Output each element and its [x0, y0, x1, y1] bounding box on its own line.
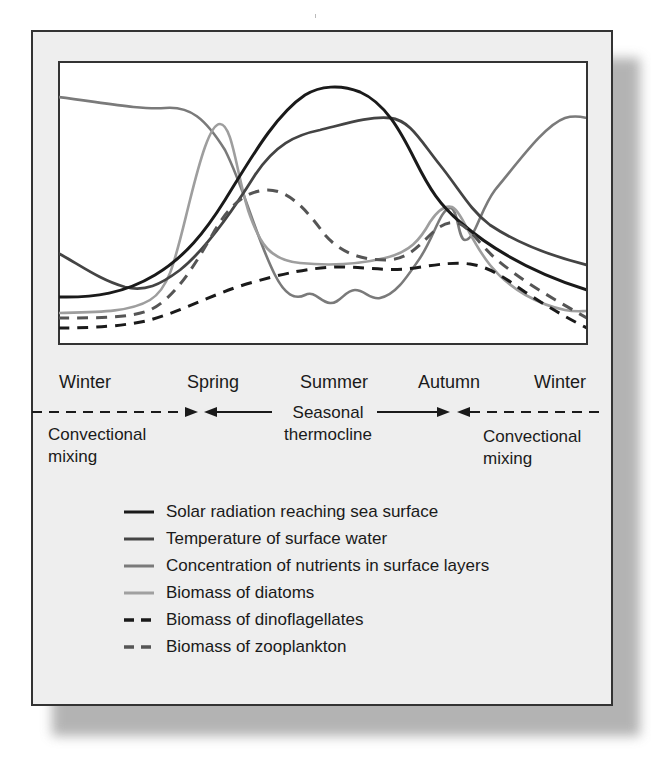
legend-label: Concentration of nutrients in surface la… — [166, 556, 489, 576]
legend-item-nutrients: Concentration of nutrients in surface la… — [122, 554, 489, 578]
left-mixing-label-line2: mixing — [48, 446, 146, 468]
right-mixing-label-line2: mixing — [483, 448, 581, 470]
season-label-spring: Spring — [187, 372, 239, 393]
season-label-winter-end: Winter — [534, 372, 586, 393]
arrowhead-left-spring — [204, 407, 217, 417]
curve-nutrients — [58, 97, 587, 303]
solid-line-icon — [122, 533, 156, 545]
arrowhead-right-autumn — [437, 407, 450, 417]
legend-label: Solar radiation reaching sea surface — [166, 502, 438, 522]
legend-item-dinoflagellates: Biomass of dinoflagellates — [122, 608, 489, 632]
legend-item-zooplankton: Biomass of zooplankton — [122, 635, 489, 659]
season-label-winter-start: Winter — [59, 372, 111, 393]
right-mixing-label: Convectional mixing — [483, 426, 581, 470]
legend: Solar radiation reaching sea surface Tem… — [122, 500, 489, 662]
dashed-line-icon — [122, 614, 156, 626]
left-mixing-label: Convectional mixing — [48, 424, 146, 468]
arrowhead-right-left — [185, 407, 198, 417]
legend-item-solar: Solar radiation reaching sea surface — [122, 500, 489, 524]
season-label-summer: Summer — [300, 372, 368, 393]
thermocline-label-line2: thermocline — [278, 424, 378, 446]
legend-label: Temperature of surface water — [166, 529, 387, 549]
legend-item-temperature: Temperature of surface water — [122, 527, 489, 551]
legend-label: Biomass of zooplankton — [166, 637, 347, 657]
thermocline-label-line1: Seasonal — [278, 402, 378, 424]
curve-temperature — [58, 118, 587, 289]
legend-label: Biomass of dinoflagellates — [166, 610, 364, 630]
legend-item-diatoms: Biomass of diatoms — [122, 581, 489, 605]
season-label-autumn: Autumn — [418, 372, 480, 393]
curve-dinoflagellates — [58, 263, 587, 328]
legend-label: Biomass of diatoms — [166, 583, 314, 603]
thermocline-label: Seasonal thermocline — [278, 402, 378, 446]
arrowhead-left-right — [457, 407, 470, 417]
solid-line-icon — [122, 587, 156, 599]
right-mixing-label-line1: Convectional — [483, 426, 581, 448]
solid-line-icon — [122, 560, 156, 572]
solid-line-icon — [122, 506, 156, 518]
dashed-line-icon — [122, 641, 156, 653]
left-mixing-label-line1: Convectional — [48, 424, 146, 446]
